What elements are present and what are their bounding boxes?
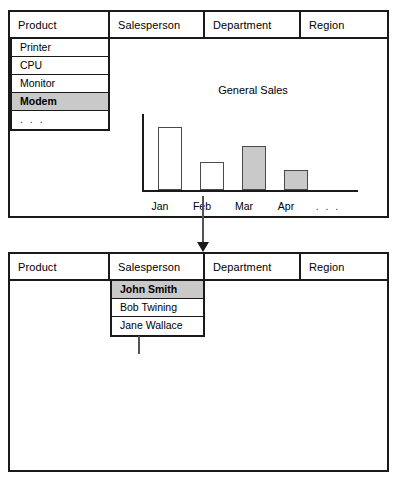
list-item[interactable]: Jane Wallace: [112, 317, 203, 335]
general-sales-chart: General Sales Jan Feb Mar Apr . . .: [128, 84, 378, 216]
plot-area: [142, 114, 358, 192]
column-header-region-label: Region: [309, 261, 344, 273]
column-header-salesperson[interactable]: Salesperson: [110, 12, 205, 37]
list-item[interactable]: Bob Twining: [112, 299, 203, 317]
column-header-region[interactable]: Region: [301, 254, 387, 279]
product-option-label: Printer: [20, 41, 51, 53]
diagram-canvas: Product Salesperson Department Region Pr…: [0, 0, 397, 482]
x-axis-tick-labels: Jan Feb Mar Apr . . .: [144, 196, 358, 212]
column-header-product-label: Product: [18, 261, 57, 273]
product-option-list: Printer CPU Monitor Modem . . .: [10, 39, 110, 131]
product-option-label: Modem: [20, 95, 57, 107]
column-header-region[interactable]: Region: [301, 12, 387, 37]
tick-label-apr: Apr: [266, 200, 306, 212]
top-panel-column-headers: Product Salesperson Department Region: [10, 12, 387, 39]
column-header-product[interactable]: Product: [10, 254, 110, 279]
bar-feb: [200, 162, 224, 190]
tick-label-mar: Mar: [224, 200, 264, 212]
chart-title: General Sales: [128, 84, 378, 96]
list-item-more[interactable]: . . .: [12, 111, 108, 129]
list-item[interactable]: Monitor: [12, 75, 108, 93]
column-header-product-label: Product: [18, 19, 57, 31]
arrow-head-icon: [197, 242, 209, 252]
column-header-salesperson[interactable]: Salesperson: [110, 254, 205, 279]
column-header-salesperson-label: Salesperson: [118, 19, 180, 31]
tick-label-jan: Jan: [140, 200, 180, 212]
salesperson-option-list: John Smith Bob Twining Jane Wallace: [110, 281, 205, 337]
product-option-label: CPU: [20, 59, 42, 71]
connector-tail-top: [202, 196, 204, 218]
salesperson-option-label: Jane Wallace: [120, 319, 183, 331]
salesperson-option-label: John Smith: [120, 283, 177, 295]
bar-jan: [158, 127, 182, 190]
list-item[interactable]: Printer: [12, 39, 108, 57]
connector-tail-salesperson: [138, 336, 140, 354]
list-item-selected[interactable]: John Smith: [112, 281, 203, 299]
list-item[interactable]: CPU: [12, 57, 108, 75]
column-header-salesperson-label: Salesperson: [118, 261, 180, 273]
column-header-product[interactable]: Product: [10, 12, 110, 37]
column-header-department[interactable]: Department: [205, 254, 301, 279]
tick-label-more: . . .: [308, 200, 348, 212]
column-header-department-label: Department: [213, 261, 271, 273]
bottom-panel-column-headers: Product Salesperson Department Region: [10, 254, 387, 281]
bar-apr: [284, 170, 308, 190]
bar-group: [144, 112, 358, 190]
top-panel: Product Salesperson Department Region Pr…: [8, 10, 389, 218]
list-item-selected[interactable]: Modem: [12, 93, 108, 111]
column-header-department[interactable]: Department: [205, 12, 301, 37]
x-axis: [142, 190, 358, 192]
drill-down-arrow: [197, 218, 209, 254]
product-option-label: . . .: [20, 113, 45, 125]
salesperson-option-label: Bob Twining: [120, 301, 177, 313]
column-header-region-label: Region: [309, 19, 344, 31]
bottom-panel: Product Salesperson Department Region Jo…: [8, 252, 389, 472]
product-option-label: Monitor: [20, 77, 55, 89]
column-header-department-label: Department: [213, 19, 271, 31]
arrow-shaft: [202, 218, 204, 244]
bar-mar: [242, 146, 266, 190]
